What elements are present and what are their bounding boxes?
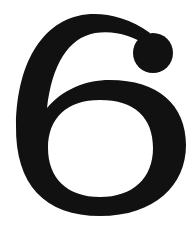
digit-six-glyph xyxy=(0,0,196,231)
